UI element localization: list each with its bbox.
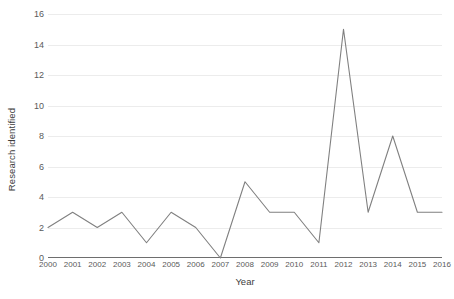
y-axis-tick-label: 16 (34, 9, 44, 19)
y-axis-tick-label: 4 (39, 192, 44, 202)
y-axis-tick-label: 2 (39, 223, 44, 233)
x-axis-tick-label: 2008 (236, 260, 254, 269)
x-axis-tick-label: 2004 (138, 260, 156, 269)
y-axis-tick-label: 14 (34, 40, 44, 50)
y-axis-tick-label: 8 (39, 131, 44, 141)
y-axis-tick-label: 6 (39, 162, 44, 172)
x-axis-tick-label: 2002 (88, 260, 106, 269)
x-axis-tick-label: 2001 (64, 260, 82, 269)
x-axis-tick-label: 2014 (384, 260, 402, 269)
x-axis-tick-label: 2013 (359, 260, 377, 269)
x-axis-tick-label: 2010 (285, 260, 303, 269)
x-axis-tick-label: 2012 (335, 260, 353, 269)
y-axis-tick-labels: 0246810121416 (22, 14, 44, 258)
x-axis-tick-label: 2011 (310, 260, 327, 269)
series-line-research-identified (48, 14, 442, 258)
y-axis-tick-label: 12 (34, 70, 44, 80)
line-chart: Research identified 0246810121416 200020… (0, 0, 454, 299)
x-axis-tick-label: 2006 (187, 260, 205, 269)
y-axis-tick-label: 10 (34, 101, 44, 111)
x-axis-tick-label: 2015 (408, 260, 426, 269)
x-axis-tick-label: 2003 (113, 260, 131, 269)
y-axis-title: Research identified (0, 0, 22, 299)
x-axis-tick-label: 2009 (261, 260, 279, 269)
plot-area (48, 14, 442, 258)
x-axis-title: Year (48, 276, 442, 287)
x-axis-tick-label: 2016 (433, 260, 451, 269)
x-axis-tick-labels: 2000200120022003200420052006200720082009… (48, 260, 442, 274)
x-axis-tick-label: 2000 (39, 260, 57, 269)
x-axis-tick-label: 2007 (211, 260, 229, 269)
x-axis-tick-label: 2005 (162, 260, 180, 269)
